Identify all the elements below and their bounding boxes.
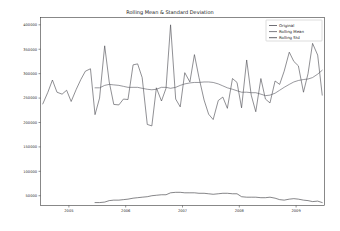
figure-canvas: Rolling Mean & Standard Deviation 500001… (0, 0, 340, 231)
chart-title: Rolling Mean & Standard Deviation (126, 9, 213, 16)
x-tick-label: 2005 (64, 209, 73, 213)
y-tick-label: 100000 (23, 170, 37, 174)
x-tick-label: 2009 (292, 209, 302, 213)
x-tick-label: 2006 (121, 209, 131, 213)
x-tick-label: 2008 (235, 209, 245, 213)
y-tick-label: 200000 (23, 121, 37, 125)
y-tick-label: 150000 (23, 145, 37, 149)
legend-label-rolling-std: Rolling Std (279, 35, 300, 40)
y-tick-label: 300000 (23, 72, 37, 76)
y-tick-label: 250000 (23, 96, 37, 100)
legend-label-rolling-mean: Rolling Mean (279, 29, 304, 34)
x-tick-label: 2007 (178, 209, 187, 213)
y-tick-label: 400000 (23, 23, 37, 27)
y-tick-label: 50000 (26, 194, 38, 198)
y-tick-label: 350000 (23, 48, 37, 52)
legend-label-original: Original (279, 23, 294, 28)
chart-legend[interactable]: OriginalRolling MeanRolling Std (266, 20, 322, 41)
chart-svg: Rolling Mean & Standard Deviation 500001… (0, 0, 340, 231)
